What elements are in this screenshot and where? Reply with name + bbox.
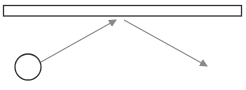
diagram-canvas <box>0 0 246 90</box>
horizontal-bar-shape <box>4 6 242 17</box>
arrow-circle-to-bar <box>41 20 116 62</box>
arrow-bar-to-right <box>124 20 207 66</box>
circle-node-shape <box>15 54 41 80</box>
